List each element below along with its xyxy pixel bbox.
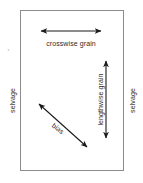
stray-speck-mark bbox=[8, 49, 10, 51]
crosswise-grain-label: crosswise grain bbox=[36, 40, 106, 47]
selvage-label-right: selvage bbox=[129, 77, 136, 125]
fabric-diagram-svg bbox=[0, 0, 143, 183]
selvage-label-left: selvage bbox=[9, 77, 16, 125]
lengthwise-grain-label: lengthwise grain bbox=[97, 68, 104, 132]
fabric-rectangle bbox=[21, 11, 124, 171]
fabric-grain-diagram: crosswise grain lengthwise grain bias se… bbox=[0, 0, 143, 183]
